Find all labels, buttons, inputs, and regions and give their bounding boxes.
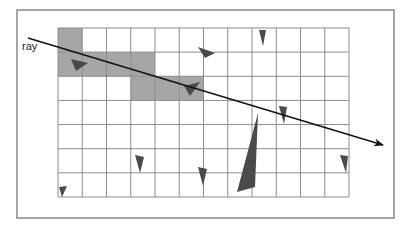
triangle	[135, 155, 144, 173]
shaded-cell	[131, 76, 155, 100]
triangle	[340, 155, 348, 173]
triangle	[259, 30, 266, 46]
ray-label: ray	[22, 40, 38, 52]
triangle	[198, 167, 207, 186]
diagram-canvas: ray	[0, 0, 407, 228]
shaded-cell	[107, 52, 131, 76]
triangle	[59, 186, 67, 197]
ray-grid-diagram: ray	[0, 0, 407, 228]
